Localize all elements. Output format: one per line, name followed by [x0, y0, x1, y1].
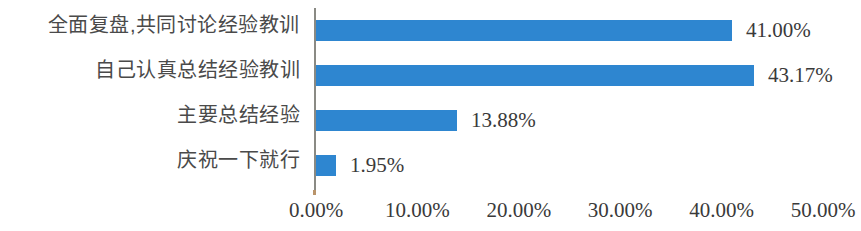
- category-label: 主要总结经验: [0, 104, 300, 126]
- category-label: 全面复盘,共同讨论经验教训: [0, 14, 300, 36]
- plot-area: 全面复盘,共同讨论经验教训 41.00% 自己认真总结经验教训 43.17% 主…: [0, 0, 861, 231]
- y-axis-tick-origin: [313, 190, 316, 195]
- category-label: 自己认真总结经验教训: [0, 59, 300, 81]
- chart-row: 自己认真总结经验教训 43.17%: [0, 53, 861, 98]
- chart-row: 庆祝一下就行 1.95%: [0, 143, 861, 188]
- bar-value-label: 1.95%: [350, 155, 404, 176]
- bar-segment: [316, 65, 754, 86]
- bar-segment: [316, 20, 732, 41]
- category-label: 庆祝一下就行: [0, 149, 300, 171]
- bar-value-label: 41.00%: [746, 20, 811, 41]
- chart-row: 全面复盘,共同讨论经验教训 41.00%: [0, 8, 861, 53]
- x-axis: 0.00% 10.00% 20.00% 30.00% 40.00% 50.00%: [0, 196, 861, 228]
- x-axis-tick-label: 50.00%: [763, 196, 861, 224]
- bar-value-label: 13.88%: [471, 110, 536, 131]
- bar-value-label: 43.17%: [768, 65, 833, 86]
- bar-segment: [316, 110, 457, 131]
- bar-segment: [316, 155, 336, 176]
- bar-chart: 全面复盘,共同讨论经验教训 41.00% 自己认真总结经验教训 43.17% 主…: [0, 0, 861, 231]
- chart-row: 主要总结经验 13.88%: [0, 98, 861, 143]
